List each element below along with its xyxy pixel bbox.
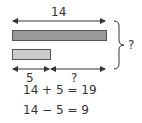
long-bar: [13, 31, 107, 41]
equation-difference: 14 − 5 = 9: [23, 104, 89, 116]
sum-brace: [114, 21, 124, 69]
short-bar: [13, 50, 51, 60]
total-label: 14: [51, 6, 66, 18]
sum-unknown-label: ?: [128, 39, 134, 51]
equation-sum: 14 + 5 = 19: [23, 84, 97, 96]
